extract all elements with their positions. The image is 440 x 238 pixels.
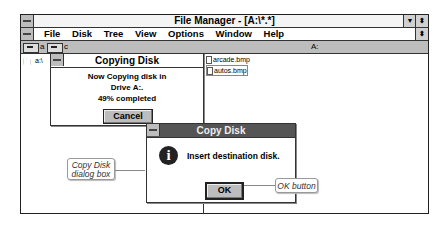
hard-drive-icon[interactable]	[47, 43, 63, 53]
dialog-title: Copying Disk	[95, 55, 159, 66]
callout-ok-button: OK button	[275, 178, 318, 193]
title-bar: File Manager - [A:\*.*] ▼ ⬍	[21, 15, 428, 28]
floppy-drive-icon[interactable]	[23, 43, 39, 53]
file-icon	[207, 67, 213, 75]
callout-dialog-box: Copy Disk dialog box	[67, 158, 115, 180]
menu-bar: File Disk Tree View Options Window Help …	[21, 28, 428, 41]
system-menu-icon[interactable]	[21, 15, 34, 27]
progress-text: 49% completed	[51, 93, 203, 104]
menu-help[interactable]: Help	[264, 28, 285, 39]
menu-disk[interactable]: Disk	[72, 28, 92, 39]
dialog-title: Copy Disk	[197, 125, 246, 136]
dialog-title-bar: Copying Disk	[51, 54, 203, 68]
folder-icon: 🗀	[23, 56, 31, 70]
dialog-message: Now Copying disk in Drive A:. 49% comple…	[51, 71, 203, 104]
drive-path: A:	[311, 41, 319, 53]
ok-button[interactable]: OK	[205, 182, 244, 200]
tree-root[interactable]: a:\	[35, 57, 43, 64]
dialog-message: Insert destination disk.	[187, 151, 280, 161]
system-menu-icon[interactable]	[147, 124, 160, 136]
document-system-menu-icon[interactable]	[21, 28, 34, 40]
menu-file[interactable]: File	[44, 28, 60, 39]
drive-a-label[interactable]: a	[40, 41, 44, 53]
window-title: File Manager - [A:\*.*]	[174, 15, 275, 26]
file-item[interactable]: arcade.bmp	[206, 55, 250, 64]
dialog-title-bar: Copy Disk	[147, 124, 295, 138]
menu-view[interactable]: View	[135, 28, 156, 39]
document-restore-button[interactable]: ⬍	[415, 28, 428, 40]
file-item-selected[interactable]: autos.bmp	[206, 65, 248, 76]
system-menu-icon[interactable]	[51, 54, 64, 66]
restore-button[interactable]: ⬍	[415, 15, 428, 27]
menu-tree[interactable]: Tree	[104, 28, 124, 39]
cancel-button[interactable]: Cancel	[103, 109, 153, 124]
menu-options[interactable]: Options	[168, 28, 204, 39]
drive-c-label[interactable]: c	[64, 41, 68, 53]
info-icon: i	[159, 146, 178, 165]
callout-arrow	[115, 170, 145, 171]
callout-arrow	[244, 185, 275, 186]
copying-disk-dialog: Copying Disk Now Copying disk in Drive A…	[50, 53, 204, 126]
menu-window[interactable]: Window	[216, 28, 252, 39]
copy-disk-dialog: Copy Disk i Insert destination disk. OK	[146, 123, 296, 203]
file-icon	[206, 56, 212, 64]
